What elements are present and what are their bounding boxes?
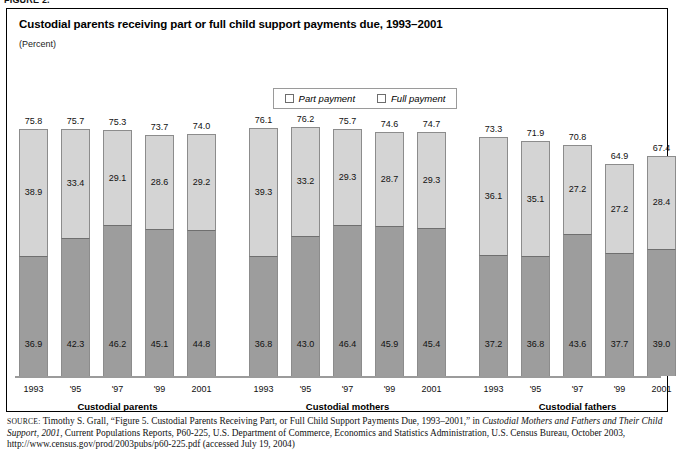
bar-value-full-payment: 45.1 — [146, 339, 173, 349]
stacked-bar[interactable]: 35.136.8 — [521, 141, 550, 376]
bar-total-label: 71.9 — [517, 128, 554, 138]
bar-total-label: 73.3 — [475, 124, 512, 134]
bar-segment-part-payment[interactable]: 33.4 — [61, 129, 90, 238]
figure-page: FIGURE 2. Custodial parents receiving pa… — [0, 0, 676, 460]
x-axis-tick-label: '97 — [557, 384, 598, 394]
bar-segment-full-payment[interactable]: 45.1 — [145, 229, 174, 376]
source-text-part-2: , Current Populations Reports, P60-225, … — [7, 428, 625, 450]
bar-segment-full-payment[interactable]: 36.9 — [19, 256, 48, 376]
bar-segment-full-payment[interactable]: 46.4 — [333, 225, 362, 376]
stacked-bar[interactable]: 28.645.1 — [145, 135, 174, 376]
chart-frame: Custodial parents receiving part or full… — [6, 8, 668, 412]
bar-segment-part-payment[interactable]: 27.2 — [563, 145, 592, 234]
x-axis-tick-label: '97 — [327, 384, 368, 394]
x-axis-tick-label: '95 — [55, 384, 96, 394]
group-label-3: Custodial fathers — [479, 401, 676, 412]
bar-segment-full-payment[interactable]: 36.8 — [249, 256, 278, 376]
bar-value-part-payment: 29.2 — [188, 177, 215, 187]
bar-value-part-payment: 29.3 — [334, 172, 361, 182]
bar-value-full-payment: 36.8 — [250, 339, 277, 349]
bar-segment-part-payment[interactable]: 28.6 — [145, 135, 174, 228]
bar-segment-full-payment[interactable]: 43.0 — [291, 236, 320, 376]
bar-value-part-payment: 29.3 — [418, 175, 445, 185]
bar-segment-full-payment[interactable]: 46.2 — [103, 225, 132, 376]
stacked-bar[interactable]: 28.439.0 — [647, 156, 676, 376]
bar-segment-part-payment[interactable]: 29.3 — [417, 132, 446, 228]
bar-value-part-payment: 33.2 — [292, 176, 319, 186]
bar-value-full-payment: 37.2 — [480, 339, 507, 349]
bar-value-full-payment: 39.0 — [648, 339, 675, 349]
stacked-bar[interactable]: 28.745.9 — [375, 132, 404, 376]
bar-total-label: 64.9 — [601, 151, 638, 161]
bar-segment-full-payment[interactable]: 36.8 — [521, 256, 550, 376]
bar-segment-part-payment[interactable]: 33.2 — [291, 127, 320, 235]
x-axis-tick-label: 2001 — [181, 384, 222, 394]
stacked-bar[interactable]: 33.442.3 — [61, 129, 90, 376]
bar-segment-full-payment[interactable]: 37.7 — [605, 253, 634, 376]
bar-group-1: 38.936.975.8199333.442.375.7'9529.146.27… — [19, 9, 216, 413]
figure-number-cropped: FIGURE 2. — [4, 0, 74, 7]
source-note: SOURCE: Timothy S. Grall, “Figure 5. Cus… — [7, 416, 671, 451]
bar-value-full-payment: 37.7 — [606, 339, 633, 349]
bar-total-label: 73.7 — [141, 122, 178, 132]
bar-segment-part-payment[interactable]: 39.3 — [249, 128, 278, 256]
bar-value-part-payment: 39.3 — [250, 187, 277, 197]
bar-segment-full-payment[interactable]: 43.6 — [563, 234, 592, 376]
bar-value-full-payment: 43.0 — [292, 339, 319, 349]
bar-total-label: 74.0 — [183, 121, 220, 131]
stacked-bar[interactable]: 29.345.4 — [417, 132, 446, 376]
bar-value-part-payment: 28.4 — [648, 197, 675, 207]
bar-value-full-payment: 46.4 — [334, 339, 361, 349]
bar-total-label: 75.3 — [99, 117, 136, 127]
bar-segment-part-payment[interactable]: 28.7 — [375, 132, 404, 226]
bar-segment-part-payment[interactable]: 28.4 — [647, 156, 676, 249]
bar-value-full-payment: 46.2 — [104, 339, 131, 349]
bar-value-part-payment: 28.6 — [146, 177, 173, 187]
bar-total-label: 74.6 — [371, 119, 408, 129]
bar-value-full-payment: 45.4 — [418, 339, 445, 349]
stacked-bar[interactable]: 33.243.0 — [291, 127, 320, 376]
stacked-bar[interactable]: 29.146.2 — [103, 130, 132, 376]
x-axis-tick-label: '99 — [369, 384, 410, 394]
stacked-bar[interactable]: 27.243.6 — [563, 145, 592, 376]
bar-value-part-payment: 28.7 — [376, 174, 403, 184]
stacked-bar[interactable]: 39.336.8 — [249, 128, 278, 376]
x-axis-tick-label: '99 — [139, 384, 180, 394]
bar-segment-part-payment[interactable]: 36.1 — [479, 137, 508, 255]
bar-segment-part-payment[interactable]: 35.1 — [521, 141, 550, 256]
x-axis-tick-label: 2001 — [641, 384, 676, 394]
bar-segment-part-payment[interactable]: 29.1 — [103, 130, 132, 225]
stacked-bar[interactable]: 38.936.9 — [19, 129, 48, 376]
source-text-part-1: Timothy S. Grall, “Figure 5. Custodial P… — [40, 416, 482, 426]
stacked-bar[interactable]: 29.346.4 — [333, 129, 362, 376]
bar-value-full-payment: 36.9 — [20, 339, 47, 349]
x-axis-tick-label: '99 — [599, 384, 640, 394]
bar-value-part-payment: 35.1 — [522, 194, 549, 204]
bar-segment-full-payment[interactable]: 44.8 — [187, 230, 216, 376]
bar-value-part-payment: 27.2 — [564, 184, 591, 194]
x-axis-tick-label: 1993 — [473, 384, 514, 394]
bar-segment-part-payment[interactable]: 29.3 — [333, 129, 362, 225]
bar-value-part-payment: 36.1 — [480, 191, 507, 201]
bar-segment-full-payment[interactable]: 45.4 — [417, 228, 446, 376]
bar-total-label: 75.7 — [329, 116, 366, 126]
bar-segment-part-payment[interactable]: 29.2 — [187, 134, 216, 229]
bar-total-label: 76.2 — [287, 114, 324, 124]
bar-value-part-payment: 29.1 — [104, 173, 131, 183]
bar-segment-part-payment[interactable]: 38.9 — [19, 129, 48, 256]
x-axis-tick-label: 1993 — [13, 384, 54, 394]
stacked-bar[interactable]: 29.244.8 — [187, 134, 216, 376]
bar-total-label: 74.7 — [413, 119, 450, 129]
stacked-bar[interactable]: 36.137.2 — [479, 137, 508, 376]
group-label-2: Custodial mothers — [249, 401, 446, 412]
bar-segment-part-payment[interactable]: 27.2 — [605, 164, 634, 253]
bar-total-label: 75.7 — [57, 116, 94, 126]
bar-segment-full-payment[interactable]: 37.2 — [479, 255, 508, 376]
x-axis-tick-label: 1993 — [243, 384, 284, 394]
stacked-bar[interactable]: 27.237.7 — [605, 164, 634, 376]
bar-segment-full-payment[interactable]: 45.9 — [375, 226, 404, 376]
group-label-1: Custodial parents — [19, 401, 216, 412]
bar-segment-full-payment[interactable]: 39.0 — [647, 249, 676, 376]
bar-segment-full-payment[interactable]: 42.3 — [61, 238, 90, 376]
bar-total-label: 75.8 — [15, 116, 52, 126]
